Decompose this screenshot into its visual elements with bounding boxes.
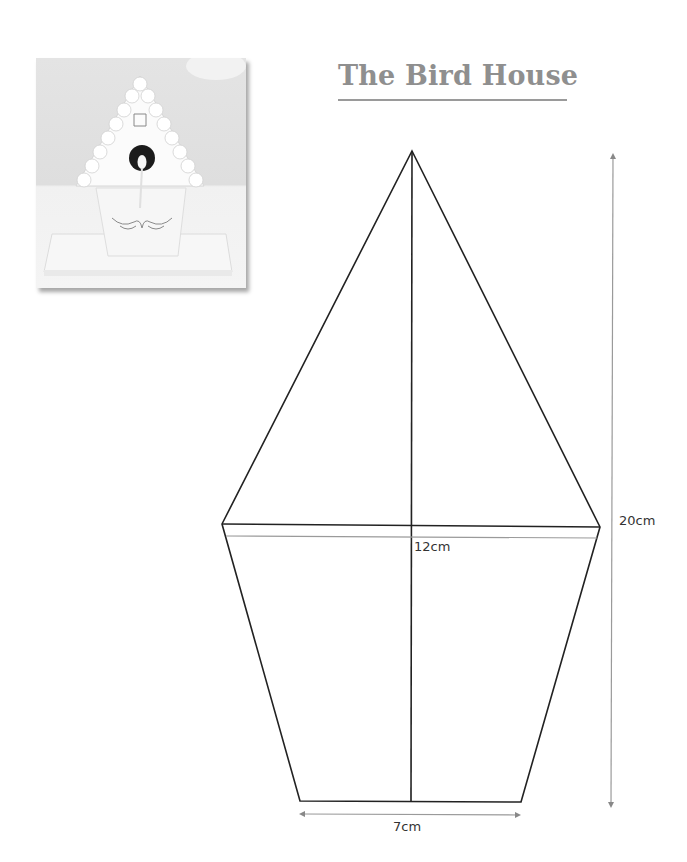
dimension-label-7cm: 7cm <box>393 819 421 834</box>
dimension-arrow-7cm <box>302 814 518 815</box>
dimension-label-12cm: 12cm <box>414 539 450 554</box>
bird-house-template-diagram <box>0 0 687 862</box>
dimension-arrow-20cm <box>611 156 613 805</box>
center-line <box>411 151 412 802</box>
dimension-label-20cm: 20cm <box>619 513 655 528</box>
